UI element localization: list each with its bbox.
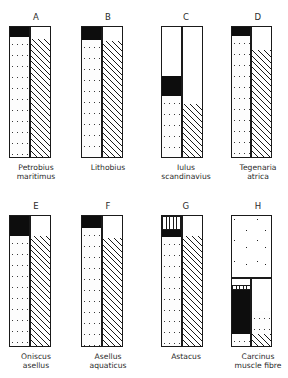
bar-column-right	[30, 26, 51, 158]
bar-group	[161, 26, 203, 158]
panel-letter: C	[150, 12, 222, 22]
bar-segment-stipple	[162, 237, 181, 346]
caption-line: Iulus	[150, 163, 222, 172]
bar-segment-white	[31, 216, 50, 236]
panel-letter: H	[222, 201, 288, 211]
panel-letter: G	[150, 201, 222, 211]
bar-column-left	[9, 26, 30, 158]
bar-segment-stipple	[10, 37, 29, 157]
bar-segment-white	[103, 27, 122, 41]
panel-caption: Asellusaquaticus	[72, 352, 144, 371]
bar-segment-sparse-top	[231, 215, 272, 278]
panel-letter: E	[0, 201, 72, 211]
caption-line: muscle fibre	[222, 361, 288, 370]
bar-segment-black	[162, 76, 181, 96]
panel-e: EOniscusasellus	[0, 189, 72, 378]
panel-c: CIulusscandinavius	[150, 0, 222, 189]
bar-column-left	[81, 26, 102, 158]
panel-caption: Petrobiusmaritimus	[0, 163, 72, 182]
bar-segment-stipple	[232, 36, 250, 157]
bar-segment-white	[252, 285, 271, 312]
bar-group	[231, 26, 272, 158]
caption-line: Asellus	[72, 352, 144, 361]
bar-group	[81, 26, 123, 158]
bar-segment-white	[31, 27, 50, 39]
bar-segment-hatch	[252, 50, 271, 157]
figure-canvas: APetrobiusmaritimusBLithobiusCIulusscand…	[0, 0, 288, 378]
caption-line: asellus	[0, 361, 72, 370]
bar-column-right	[102, 26, 123, 158]
bar-segment-hatch	[103, 238, 122, 346]
caption-line: Oniscus	[0, 352, 72, 361]
bar-segment-stipple	[252, 311, 271, 334]
caption-line: Astacus	[150, 352, 222, 361]
bar-segment-white	[183, 27, 202, 104]
panel-row-top: APetrobiusmaritimusBLithobiusCIulusscand…	[0, 0, 288, 189]
bar-column-right	[102, 215, 123, 347]
bar-column-right	[182, 215, 203, 347]
bar-segment-stipple	[82, 228, 101, 346]
bar-group	[161, 215, 203, 347]
caption-line: Petrobius	[0, 163, 72, 172]
bar-segment-hatch	[31, 39, 50, 157]
bar-group	[231, 215, 272, 347]
bar-segment-hatch	[183, 104, 202, 157]
lower-bar-group	[231, 278, 272, 347]
panel-letter: F	[72, 201, 144, 211]
caption-line: maritimus	[0, 172, 72, 181]
bar-segment-black	[82, 27, 101, 40]
bar-column-left	[231, 26, 251, 158]
bar-group	[9, 26, 51, 158]
panel-row-bottom: EOniscusasellusFAsellusaquaticusGAstacus…	[0, 189, 288, 378]
bar-column-left	[231, 278, 251, 347]
panel-caption: Astacus	[150, 352, 222, 361]
caption-line: atrica	[222, 172, 288, 181]
caption-line: Carcinus	[222, 352, 288, 361]
caption-line: scandinavius	[150, 172, 222, 181]
bar-segment-hatch	[103, 41, 122, 157]
bar-column-right	[30, 215, 51, 347]
bar-column-left	[161, 26, 182, 158]
panel-caption: Carcinusmuscle fibre	[222, 352, 288, 371]
panel-letter: A	[0, 12, 72, 22]
panel-b: BLithobius	[72, 0, 144, 189]
bar-segment-black	[10, 27, 29, 37]
caption-line: aquaticus	[72, 361, 144, 370]
panel-caption: Lithobius	[72, 163, 144, 172]
bar-column-right	[251, 278, 272, 347]
bar-segment-white	[103, 216, 122, 238]
bar-group	[81, 215, 123, 347]
panel-caption: Iulusscandinavius	[150, 163, 222, 182]
bar-segment-hatch	[183, 236, 202, 347]
bar-segment-black	[10, 216, 29, 236]
panel-d: DTegenariaatrica	[222, 0, 288, 189]
bar-segment-black	[82, 216, 101, 228]
bar-column-right	[251, 26, 272, 158]
bar-segment-hatch	[31, 236, 50, 347]
caption-line: Tegenaria	[222, 163, 288, 172]
bar-column-left	[161, 215, 182, 347]
bar-group	[9, 215, 51, 347]
bar-column-left	[81, 215, 102, 347]
bar-segment-white	[252, 27, 271, 50]
bar-segment-black	[232, 290, 250, 335]
bar-segment-white	[183, 216, 202, 236]
bar-segment-stipple	[10, 236, 29, 347]
bar-segment-black	[232, 27, 250, 36]
bar-column-right	[182, 26, 203, 158]
bar-segment-check	[162, 216, 181, 230]
caption-line: Lithobius	[72, 163, 144, 172]
panel-caption: Tegenariaatrica	[222, 163, 288, 182]
panel-letter: B	[72, 12, 144, 22]
bar-segment-hatch	[252, 334, 271, 346]
panel-f: FAsellusaquaticus	[72, 189, 144, 378]
panel-caption: Oniscusasellus	[0, 352, 72, 371]
bar-segment-stipple	[232, 334, 250, 346]
composite-bar	[231, 215, 272, 347]
panel-h: HCarcinusmuscle fibre	[222, 189, 288, 378]
bar-segment-stipple	[82, 40, 101, 157]
bar-column-left	[9, 215, 30, 347]
bar-segment-stipple	[162, 96, 181, 157]
panel-a: APetrobiusmaritimus	[0, 0, 72, 189]
panel-g: GAstacus	[150, 189, 222, 378]
